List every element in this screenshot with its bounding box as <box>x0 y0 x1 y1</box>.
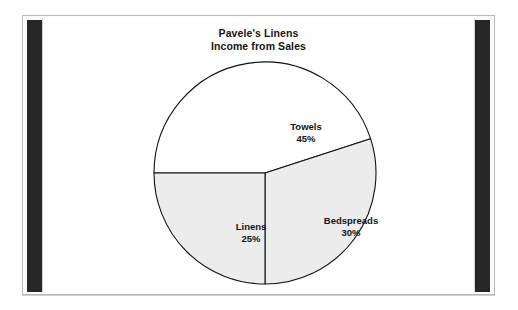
pie-chart: Towels 45% Bedspreads 30% Linens 25% <box>43 18 474 292</box>
pie-label-bedspreads-name: Bedspreads <box>324 215 378 226</box>
pie-label-bedspreads-value: 30% <box>324 227 378 239</box>
pie-svg <box>43 18 478 294</box>
pie-label-towels-value: 45% <box>290 133 322 145</box>
figure-root: Pavele's Linens Income from Sales Towels… <box>0 0 518 310</box>
chart-stage: Pavele's Linens Income from Sales Towels… <box>42 18 475 292</box>
pie-label-linens-name: Linens <box>236 221 267 232</box>
slide-panel: Pavele's Linens Income from Sales Towels… <box>22 15 495 295</box>
frame-bar-left <box>27 20 42 292</box>
pie-label-linens-value: 25% <box>236 233 267 245</box>
pie-label-bedspreads: Bedspreads 30% <box>324 215 378 239</box>
pie-label-towels: Towels 45% <box>290 121 322 145</box>
pie-label-linens: Linens 25% <box>236 221 267 245</box>
pie-label-towels-name: Towels <box>290 121 322 132</box>
